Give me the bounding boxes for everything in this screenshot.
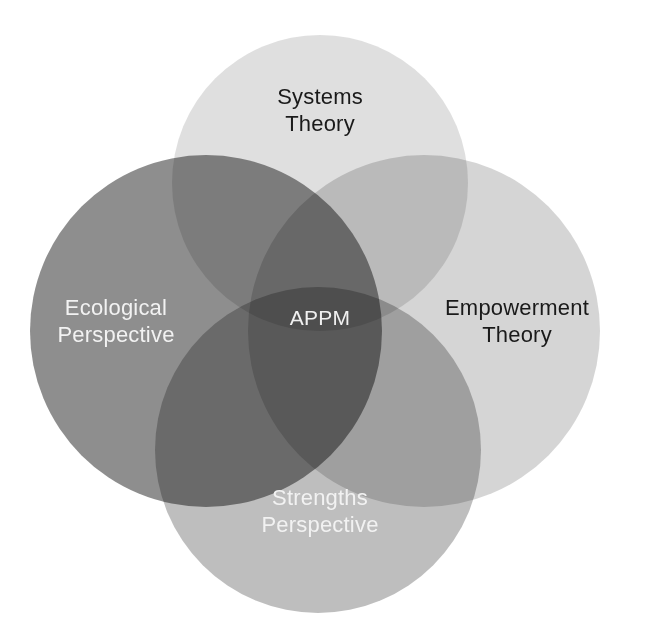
circle-ecological-perspective[interactable]	[30, 155, 382, 507]
venn-diagram-figure: Systems Theory Ecological Perspective Em…	[0, 0, 651, 637]
venn-circles-canvas	[0, 0, 651, 637]
